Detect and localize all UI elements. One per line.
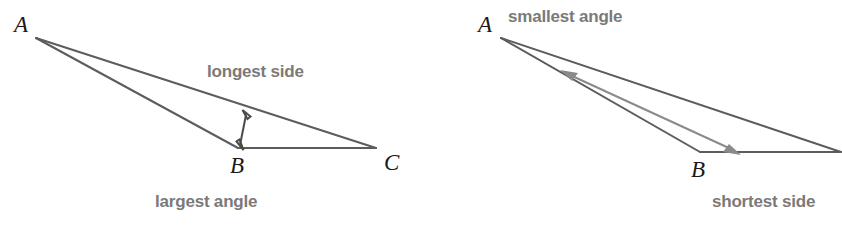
right-vertex-label-a: A [476, 12, 493, 37]
triangle-figure-svg: A B C longest side largest angle A B [0, 0, 842, 229]
left-callout-largest-angle: largest angle [155, 192, 257, 211]
left-vertex-label-a: A [12, 12, 29, 37]
right-side-measure-arrow [560, 70, 741, 155]
right-callout-smallest-angle: smallest angle [508, 7, 622, 26]
left-triangle-diagram: A B C longest side largest angle [12, 12, 400, 211]
left-vertex-label-c: C [384, 150, 400, 175]
left-callout-longest-side: longest side [207, 62, 304, 81]
left-vertex-label-b: B [230, 153, 244, 178]
right-vertex-label-b: B [691, 157, 705, 182]
left-height-measure-arrow [237, 110, 251, 150]
right-callout-shortest-side: shortest side [712, 192, 815, 211]
right-triangle-diagram: A B smallest angle shortest side [476, 7, 841, 211]
figure-root: A B C longest side largest angle A B [0, 0, 842, 229]
